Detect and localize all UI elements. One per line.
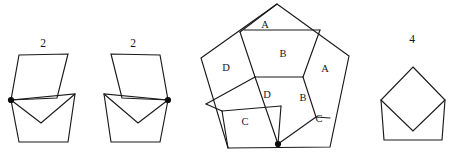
- pentagon-pivot-dot: [275, 141, 281, 147]
- mid-parallelogram-piece: [111, 54, 168, 100]
- count-label-right: 4: [409, 33, 415, 45]
- cut-c-shelf: [222, 106, 281, 111]
- piece-label-c-right: C: [315, 113, 322, 124]
- mid-chevron-cup-piece: [104, 94, 168, 142]
- cut-b-right: [303, 30, 320, 77]
- cut-topedge-to-center: [240, 4, 277, 32]
- piece-label-b-mid: B: [299, 92, 306, 103]
- piece-label-c-left: C: [241, 116, 248, 127]
- cut-apex-to-center-left: [240, 32, 255, 77]
- count-label-mid: 2: [130, 37, 136, 49]
- right-notch-edge: [381, 100, 445, 131]
- cut-d-left: [206, 77, 255, 104]
- piece-label-a-right: A: [321, 63, 329, 74]
- right-figure-group: 4: [381, 33, 445, 140]
- mid-figure-group: 2: [104, 37, 171, 142]
- piece-label-a-top: A: [261, 19, 269, 30]
- diagram-canvas: 2 2 A B: [0, 0, 453, 159]
- piece-label-d-left: D: [222, 62, 230, 73]
- piece-label-b-top: B: [279, 48, 286, 59]
- pentagon-dissection-figure: 2 2 A B: [0, 0, 453, 159]
- piece-label-d-mid: D: [263, 89, 271, 100]
- cut-b-mid-right: [278, 117, 316, 144]
- count-label-left: 2: [40, 37, 46, 49]
- mid-pivot-dot: [165, 97, 171, 103]
- cut-d-right: [278, 106, 281, 144]
- left-figure-group: 2: [8, 37, 75, 142]
- right-pentagon-outline: [381, 67, 445, 140]
- left-chevron-cup-piece: [11, 94, 75, 142]
- cut-b-mid-left: [255, 77, 278, 144]
- left-parallelogram-piece: [11, 54, 68, 100]
- pentagon-outer-outline: [201, 4, 349, 148]
- cut-c-top: [206, 104, 222, 111]
- pentagon-figure-group: A B A D D B C C: [201, 4, 349, 148]
- left-pivot-dot: [8, 97, 14, 103]
